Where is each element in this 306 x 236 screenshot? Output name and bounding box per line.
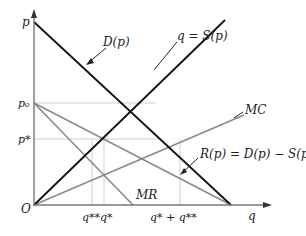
origin-label: O	[21, 202, 31, 216]
demand-label: D(p)	[102, 35, 130, 49]
guide-lines	[34, 103, 180, 205]
mc-label: MC	[244, 103, 266, 117]
supply-demand-diagram: p q O p₀ p* q**q* q* + q** D(p) q = S(p)…	[0, 0, 306, 236]
dark-curves	[34, 20, 231, 205]
q-star-plus-q-double-star-label: q* + q**	[150, 211, 197, 224]
pstar-label: p*	[18, 133, 31, 146]
residual-label: R(p) = D(p) − S(p)	[199, 147, 306, 161]
y-axis-label: p	[22, 15, 30, 29]
supply-label: q = S(p)	[177, 29, 228, 43]
supply-leader	[154, 42, 177, 70]
axes	[33, 16, 266, 206]
x-axis-arrow-icon	[263, 202, 272, 208]
mr-label: MR	[135, 188, 157, 202]
q-double-star-q-star-label: q**q*	[82, 211, 113, 224]
y-axis-arrow-icon	[31, 9, 37, 18]
p0-label: p₀	[18, 97, 30, 110]
x-axis-label: q	[248, 209, 256, 223]
